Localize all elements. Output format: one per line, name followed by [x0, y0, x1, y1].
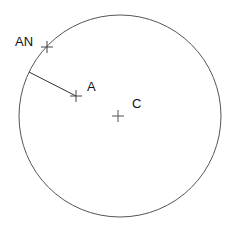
radius-segment — [29, 72, 76, 96]
diagram-canvas: AN A C — [0, 0, 230, 229]
label-an: AN — [15, 34, 33, 49]
point-a-cross-icon — [70, 90, 82, 102]
label-c: C — [132, 96, 141, 111]
label-a: A — [87, 79, 96, 94]
point-c-cross-icon — [112, 110, 124, 122]
